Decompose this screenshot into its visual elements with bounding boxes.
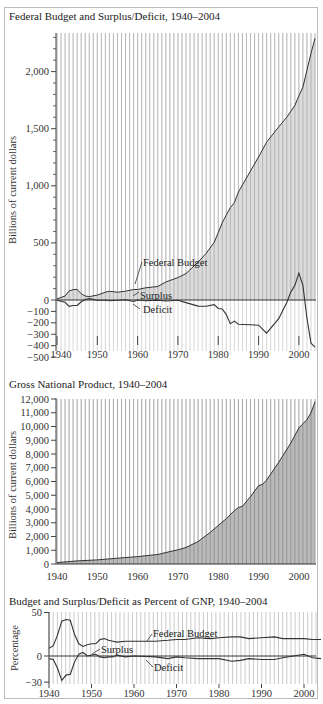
y-tick-label: 0 — [44, 559, 49, 570]
y-tick-label: 2,000 — [25, 66, 49, 77]
y-tick-label: 0 — [44, 295, 49, 306]
percent-budget-leader — [147, 634, 152, 641]
x-tick-label: 1970 — [167, 349, 188, 360]
y-tick-label: 10,000 — [20, 421, 49, 432]
gnp-y-axis-label: Billions of current dollars — [7, 431, 18, 539]
x-tick-label: 1990 — [248, 349, 269, 360]
y-tick-label: −500 — [27, 352, 49, 363]
y-tick-label: 6,000 — [25, 476, 49, 487]
percent-x-ticks: 1940195019601970198019902000 — [39, 684, 315, 699]
budget-y-ticks: 2,0001,5001,0005000−100−200−300−400−500 — [25, 37, 56, 362]
charts-canvas: Federal Budget and Surplus/Deficit, 1940… — [0, 0, 323, 704]
y-tick-label: −200 — [27, 317, 49, 328]
y-tick-label: 1,000 — [25, 180, 49, 191]
x-tick-label: 1980 — [208, 349, 229, 360]
y-tick-label: 11,000 — [21, 407, 50, 418]
gnp-chart: Gross National Product, 1940–2004 12,000… — [7, 378, 316, 582]
y-tick-label: 50 — [32, 607, 43, 618]
x-tick-label: 2000 — [288, 349, 309, 360]
percent-budget-label: Federal Budget — [153, 628, 218, 639]
percent-surplus-label: Surplus — [101, 644, 133, 655]
budget-label-leader — [135, 262, 142, 284]
y-tick-label: 2,000 — [25, 531, 49, 542]
y-tick-label: −100 — [27, 306, 49, 317]
percent-chart: Budget and Surplus/Deficit as Percent of… — [9, 595, 321, 699]
y-tick-label: 7,000 — [25, 462, 49, 473]
y-tick-label: −300 — [27, 329, 49, 340]
percent-deficit-label: Deficit — [154, 662, 183, 673]
y-tick-label: 12,000 — [20, 394, 49, 405]
y-tick-label: 4,000 — [25, 504, 49, 515]
gnp-chart-title: Gross National Product, 1940–2004 — [9, 378, 168, 390]
y-tick-label: 3,000 — [25, 517, 49, 528]
x-tick-label: 1970 — [166, 688, 187, 699]
x-tick-label: 1990 — [248, 571, 269, 582]
percent-deficit-line — [49, 653, 321, 681]
surplus-label: Surplus — [140, 290, 172, 301]
y-tick-label: −30 — [26, 677, 42, 688]
x-tick-label: 2000 — [288, 571, 309, 582]
x-tick-label: 1980 — [209, 688, 230, 699]
y-tick-label: 1,500 — [25, 123, 49, 134]
percent-chart-gridlines — [49, 612, 316, 684]
x-tick-label: 1960 — [124, 688, 145, 699]
x-tick-label: 1940 — [47, 571, 68, 582]
y-tick-label: 8,000 — [25, 449, 49, 460]
x-tick-label: 1950 — [81, 688, 102, 699]
y-tick-label: −400 — [27, 340, 49, 351]
y-tick-label: 1,000 — [25, 545, 49, 556]
budget-chart: Federal Budget and Surplus/Deficit, 1940… — [7, 10, 316, 363]
percent-y-axis-label: Percentage — [9, 625, 20, 671]
x-tick-label: 1950 — [87, 349, 108, 360]
y-tick-label: 5,000 — [25, 490, 49, 501]
budget-y-axis-label: Billions of current dollars — [7, 136, 18, 244]
x-tick-label: 1960 — [127, 349, 148, 360]
x-tick-label: 2000 — [294, 688, 315, 699]
y-tick-label: 9,000 — [25, 435, 49, 446]
percent-y-ticks: 500−30 — [26, 607, 49, 688]
x-tick-label: 1940 — [39, 688, 60, 699]
x-tick-label: 1970 — [167, 571, 188, 582]
percent-chart-title: Budget and Surplus/Deficit as Percent of… — [9, 595, 268, 607]
budget-label: Federal Budget — [143, 257, 208, 268]
x-tick-label: 1950 — [87, 571, 108, 582]
x-tick-label: 1980 — [208, 571, 229, 582]
deficit-label-leader — [133, 304, 140, 309]
gnp-x-ticks: 1940195019601970198019902000 — [47, 568, 310, 582]
deficit-label: Deficit — [143, 304, 172, 315]
budget-chart-title: Federal Budget and Surplus/Deficit, 1940… — [9, 10, 221, 22]
percent-deficit-leader — [146, 660, 153, 667]
y-tick-label: 500 — [33, 237, 49, 248]
gnp-y-ticks: 12,00011,00010,0009,0008,0007,0006,0005,… — [20, 394, 56, 570]
y-tick-label: 0 — [37, 651, 42, 662]
x-tick-label: 1990 — [251, 688, 272, 699]
x-tick-label: 1960 — [127, 571, 148, 582]
x-tick-label: 1940 — [51, 349, 72, 360]
